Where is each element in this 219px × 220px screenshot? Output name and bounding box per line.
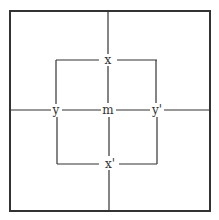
label-y-prime: y' bbox=[151, 103, 162, 117]
label-x-prime: x' bbox=[105, 157, 115, 171]
label-x: x bbox=[105, 53, 112, 67]
diagram-canvas: x y m y' x' bbox=[0, 0, 219, 220]
label-m: m bbox=[102, 103, 114, 117]
label-y: y bbox=[52, 103, 60, 117]
